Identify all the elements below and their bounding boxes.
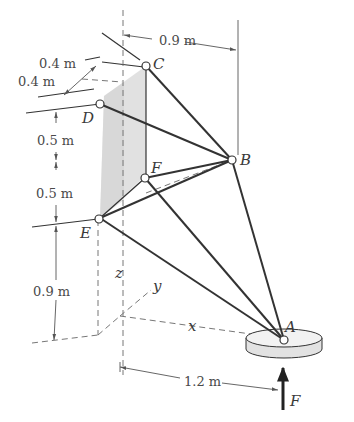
dim-0-4m-upper: 0.4 m	[39, 57, 76, 70]
label-axis-y: y	[153, 279, 161, 294]
joint-c	[142, 62, 150, 70]
joint-f	[141, 174, 149, 182]
dim-0-9m-top: 0.9 m	[159, 34, 196, 47]
label-point-f: F	[151, 161, 161, 176]
joint-e	[95, 215, 103, 223]
joint-a	[280, 336, 288, 344]
label-force-f: F	[290, 394, 300, 409]
label-point-a: A	[285, 320, 296, 335]
label-point-e: E	[80, 226, 91, 241]
dim-1-2m-bottom: 1.2 m	[184, 375, 221, 388]
dim-0-5m-upper: 0.5 m	[37, 134, 74, 147]
dim-0-9m-vertical: 0.9 m	[33, 285, 70, 298]
label-axis-x: x	[188, 319, 196, 334]
truss-diagram: C D B F E A F z y x 0.9 m 0.4 m 0.4 m 0.…	[0, 0, 354, 422]
dim-0-5m-lower: 0.5 m	[36, 187, 73, 200]
label-point-d: D	[82, 111, 94, 126]
joint-b	[228, 156, 236, 164]
label-axis-z: z	[115, 266, 123, 281]
label-point-c: C	[153, 57, 164, 72]
label-point-b: B	[240, 153, 251, 168]
dim-0-4m-lower: 0.4 m	[18, 75, 55, 88]
joint-d	[96, 100, 104, 108]
